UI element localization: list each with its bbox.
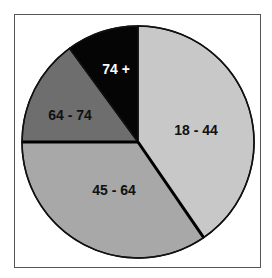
label-18-44: 18 - 44 — [174, 122, 218, 138]
label-64-74: 64 - 74 — [48, 107, 92, 123]
pie-chart: 18 - 44 45 - 64 64 - 74 74 + — [0, 0, 272, 278]
label-74-plus: 74 + — [102, 61, 130, 77]
label-45-64: 45 - 64 — [92, 182, 136, 198]
